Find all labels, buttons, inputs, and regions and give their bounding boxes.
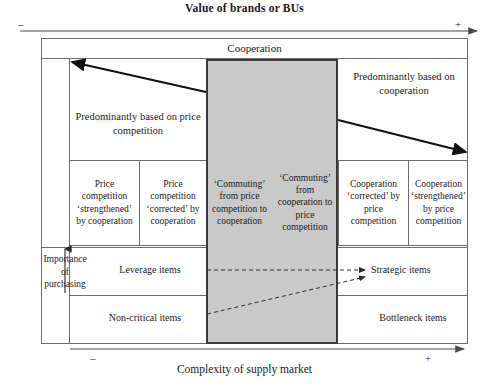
kraljic-label-strategic: Strategic items: [369, 262, 465, 278]
header-right-block: Predominantly based on cooperation: [341, 62, 467, 106]
diagram-title: Value of brands or BUs: [0, 2, 489, 14]
kraljic-label-bottleneck: Bottleneck items: [358, 310, 468, 326]
strategy-cell-cooperation-strengthened: Cooperation ‘strengthened’ by price comp…: [409, 161, 468, 244]
diagram-canvas: Value of brands or BUs – + Cooperation P…: [0, 0, 489, 388]
strategy-cell-commuting-price-to-cooperation: ‘Commuting’ from price competition to co…: [207, 161, 272, 244]
top-axis-plus-label: +: [455, 19, 461, 30]
kraljic-label-leverage: Leverage items: [95, 262, 205, 278]
strategy-cell-commuting-cooperation-to-price: ‘Commuting’ from cooperation to price co…: [272, 161, 338, 244]
header-left-block: Predominantly based on price competition: [72, 100, 204, 148]
cooperation-band: Cooperation: [41, 38, 468, 59]
strategy-cell-cooperation-corrected: Cooperation ‘corrected’ by price competi…: [339, 161, 408, 244]
strategy-cell-price-competition-strengthened: Price competition ‘strengthened’ by coop…: [70, 161, 139, 244]
top-axis-minus-label: –: [18, 19, 24, 30]
cooperation-band-label: Cooperation: [227, 42, 281, 54]
left-axis-label: Importance of purchasing: [44, 250, 86, 294]
kraljic-label-non-critical: Non-critical items: [85, 310, 205, 326]
strategy-cell-price-competition-corrected: Price competition ‘corrected’ by coopera…: [140, 161, 206, 244]
bottom-axis-label: Complexity of supply market: [0, 363, 489, 375]
